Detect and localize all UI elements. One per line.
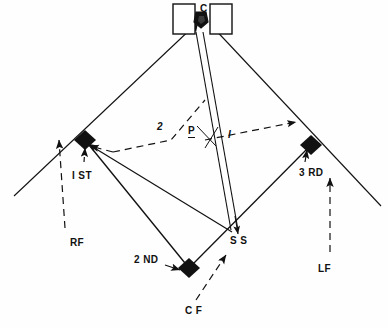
first-base-pointer-arrow	[84, 148, 85, 162]
route-one-dashed-path	[205, 122, 296, 140]
second-base-pointer-arrow	[165, 265, 180, 270]
label-route-one: I	[228, 130, 231, 140]
label-shortstop: S S	[230, 236, 247, 246]
foul-line-left	[210, 24, 381, 206]
label-first-base: I ST	[72, 171, 92, 181]
label-left-field: LF	[318, 264, 331, 274]
third-base-pointer-arrow	[305, 150, 307, 162]
label-catcher: C	[200, 4, 208, 14]
foul-line-right	[14, 24, 196, 196]
label-third-base: 3 RD	[299, 168, 323, 178]
batters-box-left	[173, 4, 195, 34]
label-right-field: RF	[70, 238, 84, 248]
right-field-arrow	[59, 140, 65, 228]
field-diagram-canvas: C P I ST 2 ND 3 RD S S RF C F LF I 2	[0, 0, 388, 328]
double-path-home-to-shortstop	[196, 32, 238, 234]
line-first-to-shortstop	[88, 144, 232, 232]
label-second-base: 2 ND	[134, 255, 158, 265]
center-field-arrow	[196, 255, 226, 300]
base-path-second-to-third	[189, 145, 311, 268]
diagram-vector-layer	[0, 0, 388, 328]
label-pitcher: P	[188, 126, 195, 138]
batters-box-right	[210, 4, 232, 34]
label-route-two: 2	[157, 122, 163, 132]
label-center-field: C F	[185, 306, 202, 316]
base-path-first-to-second	[85, 140, 189, 268]
